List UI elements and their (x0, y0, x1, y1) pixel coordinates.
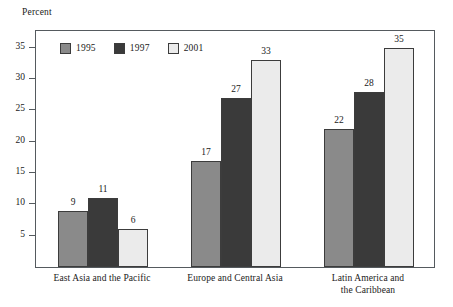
plot-area: 5101520253035 199519972001 9116172733222… (35, 30, 435, 268)
bar-rect (384, 48, 414, 267)
bar-rect (354, 92, 384, 267)
bar-value-label: 6 (131, 215, 136, 226)
bar-2001-0[interactable]: 6 (118, 31, 148, 267)
bars-layer: 9116172733222835 (36, 31, 434, 267)
bar-1995-2[interactable]: 22 (324, 31, 354, 267)
y-axis-tick-30: 30 (29, 78, 36, 79)
bar-1997-2[interactable]: 28 (354, 31, 384, 267)
bar-rect (324, 129, 354, 267)
bar-value-label: 27 (231, 84, 241, 95)
bar-1995-0[interactable]: 9 (58, 31, 88, 267)
bar-1997-1[interactable]: 27 (221, 31, 251, 267)
y-axis-tick-20: 20 (29, 141, 36, 142)
y-axis-tick-label: 20 (16, 134, 26, 147)
y-axis-tick-label: 5 (20, 228, 25, 241)
bar-1995-1[interactable]: 17 (191, 31, 221, 267)
y-axis-tick-label: 25 (16, 102, 26, 115)
bar-2001-1[interactable]: 33 (251, 31, 281, 267)
bar-rect (58, 211, 88, 267)
bar-rect (251, 60, 281, 267)
y-axis-title: Percent (22, 6, 52, 18)
bar-value-label: 35 (394, 34, 404, 45)
bar-2001-2[interactable]: 35 (384, 31, 414, 267)
bar-group-0: 9116 (58, 31, 148, 267)
y-axis-tick-25: 25 (29, 109, 36, 110)
bar-value-label: 9 (71, 197, 76, 208)
bar-value-label: 11 (98, 184, 107, 195)
x-axis-category-label-2: Latin America and the Caribbean (288, 273, 448, 296)
bar-group-2: 222835 (324, 31, 414, 267)
bar-value-label: 17 (201, 147, 211, 158)
bar-1997-0[interactable]: 11 (88, 31, 118, 267)
bar-value-label: 22 (334, 115, 344, 126)
y-axis-tick-label: 15 (16, 165, 26, 178)
bar-rect (221, 98, 251, 267)
bar-chart-figure: Percent 5101520253035 199519972001 91161… (0, 0, 453, 307)
bar-group-1: 172733 (191, 31, 281, 267)
bar-value-label: 28 (364, 78, 374, 89)
y-axis-tick-15: 15 (29, 172, 36, 173)
y-axis-tick-35: 35 (29, 47, 36, 48)
bar-rect (88, 198, 118, 267)
y-axis-tick-label: 30 (16, 71, 26, 84)
y-axis-tick-label: 10 (16, 196, 26, 209)
y-axis-tick-10: 10 (29, 203, 36, 204)
bar-value-label: 33 (261, 46, 271, 57)
y-axis-tick-5: 5 (29, 235, 36, 236)
y-axis-tick-label: 35 (16, 40, 26, 53)
bar-rect (191, 161, 221, 267)
bar-rect (118, 229, 148, 267)
